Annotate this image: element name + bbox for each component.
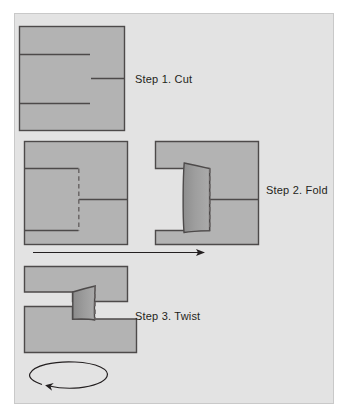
twist-rotation-arrow [30, 362, 108, 388]
step-1-label: Step 1. Cut [135, 73, 192, 85]
step-2-label: Step 2. Fold [266, 184, 328, 196]
step-2-before-group [25, 142, 128, 245]
step-3-label: Step 3. Twist [135, 310, 200, 322]
figure-root: Step 1. Cut Step 2. Fold [0, 0, 349, 419]
step-2-after-group: Step 2. Fold [156, 142, 328, 245]
diagram-canvas: Step 1. Cut Step 2. Fold [0, 0, 349, 419]
step-1-group: Step 1. Cut [20, 27, 193, 131]
step-3-group: Step 3. Twist [25, 267, 201, 353]
step2-before-sheet [25, 142, 128, 245]
step2-folded-tab [183, 163, 209, 233]
rotation-ellipse-path [30, 362, 108, 388]
step3-twisted-tab [73, 286, 95, 320]
